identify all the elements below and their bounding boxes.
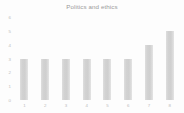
y-axis: 0123456 — [0, 17, 14, 100]
y-tick-label: 1 — [9, 84, 11, 89]
x-axis: 12345678 — [14, 100, 180, 111]
y-tick-label: 2 — [9, 70, 11, 75]
x-tick-label: 1 — [23, 103, 25, 108]
bar — [103, 59, 111, 101]
bar — [145, 45, 153, 100]
y-tick-label: 3 — [9, 56, 11, 61]
x-tick-label: 8 — [168, 103, 170, 108]
y-tick-label: 5 — [9, 28, 11, 33]
x-tick-label: 4 — [85, 103, 87, 108]
bar — [62, 59, 70, 101]
bar — [124, 59, 132, 101]
x-tick-label: 2 — [44, 103, 46, 108]
bars-layer — [14, 17, 180, 100]
x-tick-label: 6 — [127, 103, 129, 108]
x-tick-label: 5 — [106, 103, 108, 108]
y-tick-label: 4 — [9, 42, 11, 47]
y-tick-label: 0 — [9, 98, 11, 103]
x-tick-label: 7 — [148, 103, 150, 108]
x-tick-label: 3 — [65, 103, 67, 108]
plot-area — [14, 17, 180, 100]
bar — [20, 59, 28, 101]
bar-chart: Politics and ethics 0123456 12345678 — [0, 0, 184, 113]
y-tick-label: 6 — [9, 15, 11, 20]
chart-title: Politics and ethics — [0, 3, 184, 11]
bar — [83, 59, 91, 101]
bar — [41, 59, 49, 101]
bar — [166, 31, 174, 100]
